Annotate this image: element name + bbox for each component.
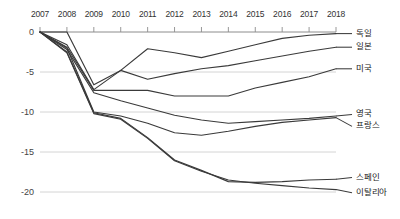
series-label-독일: 독일: [356, 29, 372, 38]
x-axis-label: 2015: [246, 9, 264, 19]
x-axis-label: 2007: [31, 9, 49, 19]
legend-leader-5: [336, 178, 352, 180]
series-label-스페인: 스페인: [356, 173, 379, 182]
series-label-이탈리아: 이탈리아: [356, 188, 387, 197]
x-axis-label: 2011: [139, 9, 156, 19]
x-axis-label: 2017: [300, 9, 318, 19]
x-axis-ticks: [40, 27, 336, 32]
x-axis-label: 2009: [85, 9, 103, 19]
y-axis-label: -5: [8, 67, 34, 77]
legend-leader-6: [336, 190, 352, 193]
x-axis-label: 2014: [219, 9, 237, 19]
gridlines: [40, 32, 336, 192]
line-chart: 2007200820092010201120122013201420152016…: [0, 0, 400, 219]
series-line-2: [40, 32, 336, 96]
x-axis-label: 2008: [58, 9, 76, 19]
y-axis-label: -15: [8, 147, 34, 157]
series-label-영국: 영국: [356, 109, 372, 118]
y-axis-label: -10: [8, 107, 34, 117]
legend-leader-3: [336, 114, 352, 116]
series-line-3: [40, 32, 336, 123]
legend-leader-lines: [336, 34, 352, 193]
legend-leader-4: [336, 118, 352, 127]
y-axis-label: 0: [8, 27, 34, 37]
series-label-미국: 미국: [356, 64, 372, 73]
series-label-일본: 일본: [356, 42, 372, 51]
x-axis-label: 2013: [192, 9, 210, 19]
x-axis-label: 2018: [327, 9, 345, 19]
x-axis-label: 2016: [273, 9, 291, 19]
chart-plot-area: [0, 0, 400, 219]
x-axis-label: 2012: [165, 9, 183, 19]
series-label-프랑스: 프랑스: [356, 121, 379, 130]
y-axis-label: -20: [8, 187, 34, 197]
series-lines: [40, 32, 336, 190]
x-axis-label: 2010: [112, 9, 130, 19]
